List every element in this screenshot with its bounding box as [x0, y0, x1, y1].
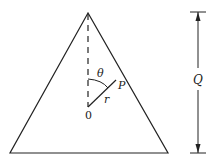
radius-label: r — [104, 93, 110, 106]
point-label: P — [117, 79, 126, 92]
triangle-diagram: θ P r 0 Q — [0, 0, 213, 163]
origin-label: 0 — [85, 109, 92, 122]
height-label: Q — [193, 73, 203, 87]
theta-label: θ — [97, 67, 104, 80]
radius-line — [88, 80, 116, 107]
arrowhead-up-icon — [196, 12, 201, 21]
arrowhead-down-icon — [196, 144, 201, 153]
theta-arc — [88, 79, 108, 88]
triangle — [10, 13, 168, 153]
